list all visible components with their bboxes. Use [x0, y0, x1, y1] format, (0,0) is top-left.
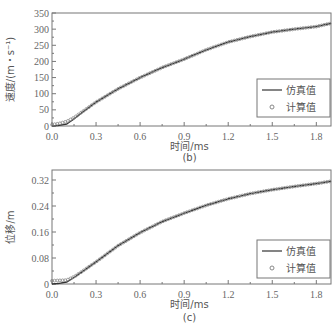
y-tick-label: 0.24	[32, 201, 50, 212]
chart-panel-displacement: 0.00.30.60.91.21.51.800.080.160.240.32仿真…	[4, 170, 331, 323]
legend-label-simulated: 仿真值	[286, 245, 316, 257]
x-tick-label: 0.0	[46, 289, 59, 300]
y-tick-label: 250	[34, 40, 49, 51]
x-axis-title: 时间/ms	[170, 140, 208, 152]
x-tick-label: 0.3	[90, 289, 103, 300]
legend: 仿真值计算值	[257, 79, 330, 117]
x-axis-title: 时间/ms	[170, 298, 208, 310]
x-tick-label: 0.6	[134, 289, 147, 300]
x-tick-label: 1.2	[222, 131, 235, 142]
panel-caption: (b)	[182, 152, 196, 163]
x-tick-label: 1.8	[310, 131, 323, 142]
x-tick-label: 0.3	[90, 131, 103, 142]
x-tick-label: 0.0	[46, 131, 59, 142]
legend: 仿真值计算值	[257, 240, 330, 278]
legend-label-calculated: 计算值	[286, 262, 316, 274]
y-tick-label: 350	[34, 8, 49, 19]
y-tick-label: 0	[44, 279, 49, 290]
y-tick-label: 0.08	[32, 253, 50, 264]
y-tick-label: 50	[39, 104, 49, 115]
y-tick-label: 100	[34, 88, 49, 99]
y-tick-label: 0.32	[32, 175, 50, 186]
chart-panel-velocity: 0.00.30.60.91.21.51.80501001502002503003…	[4, 8, 331, 164]
legend-label-simulated: 仿真值	[286, 84, 316, 96]
figure: 0.00.30.60.91.21.51.80501001502002503003…	[0, 0, 336, 333]
legend-label-calculated: 计算值	[286, 101, 316, 113]
y-axis-title: 速度/(m・s⁻¹)	[4, 37, 16, 103]
y-tick-label: 0.16	[32, 227, 50, 238]
y-tick-label: 200	[34, 56, 49, 67]
x-tick-label: 1.5	[266, 131, 279, 142]
panel-caption: (c)	[183, 312, 196, 323]
y-tick-label: 150	[34, 72, 49, 83]
x-tick-label: 0.6	[134, 131, 147, 142]
x-tick-label: 1.8	[310, 289, 323, 300]
y-axis-title: 位移/m	[4, 210, 16, 243]
x-tick-label: 1.5	[266, 289, 279, 300]
x-tick-label: 1.2	[222, 289, 235, 300]
y-tick-label: 300	[34, 24, 49, 35]
y-tick-label: 0	[44, 121, 49, 132]
